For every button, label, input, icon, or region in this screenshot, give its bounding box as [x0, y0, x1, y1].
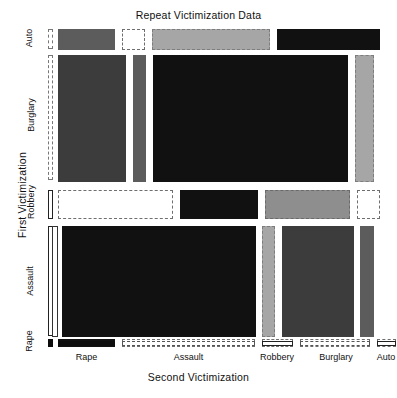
x-tick-label-robbery: Robbery — [246, 352, 308, 362]
mosaic-cell-burglary-rape — [58, 55, 126, 182]
x-tick-label-auto: Auto — [366, 352, 397, 362]
mosaic-cell-burglary-robbery — [153, 55, 348, 182]
x-tick-label-burglary: Burglary — [302, 352, 370, 362]
mosaic-cell-assault-robbery — [262, 226, 275, 337]
x-tick-label-assault: Assault — [122, 352, 255, 362]
y-tick-label-assault: Assault — [25, 256, 35, 306]
y-tick-bar-burglary — [48, 55, 53, 180]
mosaic-cell-auto-assault — [122, 29, 145, 50]
y-tick-bar-rape — [48, 339, 53, 347]
x-tick-bar-assault — [122, 341, 255, 346]
x-tick-bar-auto — [377, 341, 396, 346]
mosaic-cell-robbery-burglary — [265, 190, 350, 219]
x-tick-bar-robbery — [262, 341, 293, 346]
x-tick-label-rape: Rape — [58, 352, 115, 362]
x-axis-title: Second Victimization — [0, 371, 397, 383]
mosaic-cell-robbery-auto — [357, 190, 380, 219]
y-tick-label-burglary: Burglary — [26, 85, 36, 145]
mosaic-cell-assault-burglary — [282, 226, 354, 337]
mosaic-cell-assault-assault — [62, 226, 256, 337]
x-axis-title-text: Second Victimization — [148, 371, 249, 383]
mosaic-plot-figure: Repeat Victimization Data First Victimiz… — [0, 0, 397, 398]
x-tick-bar-burglary — [300, 341, 370, 346]
x-tick-bar-rape — [58, 341, 115, 346]
mosaic-cell-burglary-auto — [355, 55, 374, 182]
y-tick-label-robbery: Robbery — [26, 175, 36, 230]
y-tick-label-rape: Rape — [24, 321, 34, 361]
mosaic-cell-assault-rape — [52, 226, 58, 337]
mosaic-cell-burglary-assault — [133, 55, 146, 182]
mosaic-cell-auto-robbery — [152, 29, 270, 50]
y-tick-bar-auto — [48, 29, 53, 49]
mosaic-cell-auto-rape — [58, 29, 115, 50]
mosaic-cell-robbery-robbery — [180, 190, 258, 219]
mosaic-cell-robbery-rape — [58, 190, 173, 219]
y-tick-label-auto: Auto — [24, 18, 34, 58]
page-title: Repeat Victimization Data — [0, 9, 397, 21]
y-tick-bar-robbery — [48, 190, 53, 219]
mosaic-cell-auto-burglary — [277, 29, 380, 50]
mosaic-cell-assault-auto — [360, 226, 374, 337]
